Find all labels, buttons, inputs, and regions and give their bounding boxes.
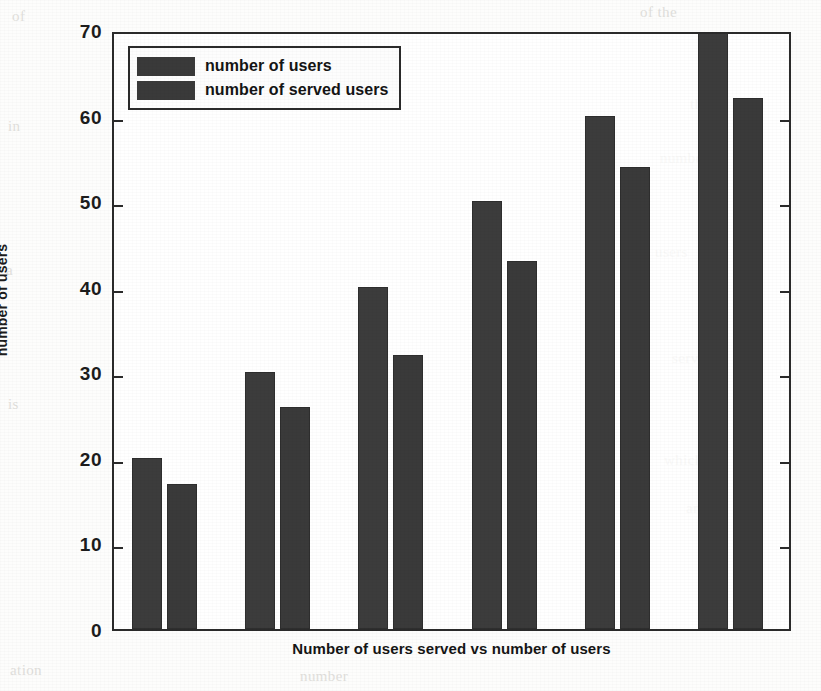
bar-number-of-users-5	[585, 116, 615, 629]
bar-number-of-served-users-6	[733, 98, 763, 629]
y-tick-mark	[114, 376, 123, 378]
bar-number-of-served-users-4	[507, 261, 537, 629]
y-tick-mark	[780, 547, 789, 549]
y-tick-mark	[780, 462, 789, 464]
y-tick-mark	[780, 205, 789, 207]
bar-chart-figure: 010203040506070 number of users number o…	[0, 0, 821, 691]
bar-number-of-users-3	[358, 287, 388, 629]
bar-number-of-served-users-1	[167, 484, 197, 629]
legend-item: number of users	[137, 54, 389, 78]
legend-swatch-number-of-served-users	[137, 81, 195, 100]
bar-number-of-served-users-5	[620, 167, 650, 629]
y-tick-mark	[114, 205, 123, 207]
plot-area: number of users number of served users	[112, 32, 791, 631]
scanned-page: of the to the number of users is served …	[0, 0, 821, 691]
y-tick-mark	[780, 120, 789, 122]
y-tick-mark	[114, 291, 123, 293]
y-tick-mark	[114, 547, 123, 549]
legend-label: number of users	[205, 57, 332, 75]
bar-number-of-users-1	[132, 458, 162, 629]
y-tick-label: 70	[18, 21, 102, 43]
y-axis-label: number of users	[0, 244, 10, 357]
y-tick-mark	[780, 376, 789, 378]
bars-layer	[114, 34, 789, 629]
legend-swatch-number-of-users	[137, 57, 195, 76]
y-tick-label: 30	[18, 363, 102, 385]
y-tick-label: 50	[18, 192, 102, 214]
y-tick-label: 60	[18, 107, 102, 129]
y-tick-mark	[114, 120, 123, 122]
bar-number-of-served-users-3	[393, 355, 423, 629]
x-axis-label: Number of users served vs number of user…	[112, 640, 791, 657]
y-tick-mark	[114, 462, 123, 464]
legend-item: number of served users	[137, 78, 389, 102]
bar-number-of-users-2	[245, 372, 275, 629]
bar-number-of-users-4	[472, 201, 502, 629]
y-tick-label: 0	[18, 620, 102, 642]
y-tick-mark	[780, 291, 789, 293]
legend-label: number of served users	[205, 81, 389, 99]
y-tick-label: 20	[18, 449, 102, 471]
y-tick-label: 10	[18, 534, 102, 556]
chart-legend: number of users number of served users	[128, 46, 401, 110]
bar-number-of-users-6	[698, 32, 728, 629]
y-tick-label: 40	[18, 278, 102, 300]
bar-number-of-served-users-2	[280, 407, 310, 629]
